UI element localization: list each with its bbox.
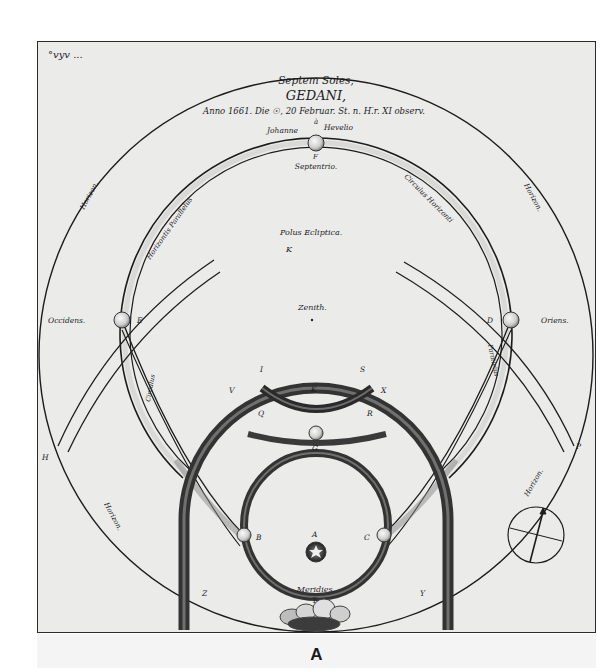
sun-east-D bbox=[503, 312, 519, 328]
letter-arc-right: S bbox=[360, 365, 365, 374]
label-parallelus-lower: Parallelus bbox=[486, 343, 501, 378]
letter-far-left: H bbox=[41, 453, 49, 462]
title-line-3: Anno 1661. Die ☉, 20 Februar. St. n. H.̅… bbox=[202, 106, 425, 116]
sun-west-E bbox=[114, 312, 130, 328]
letter-center-sun: G bbox=[312, 444, 318, 453]
label-oriens: Oriens. bbox=[541, 316, 569, 325]
letter-right-parhelion: C bbox=[364, 533, 370, 542]
sun-top bbox=[308, 135, 324, 151]
title-line-2: GEDANI, bbox=[286, 88, 346, 103]
letter-inner-right: R bbox=[366, 409, 373, 418]
label-pole-symbol: K bbox=[285, 245, 293, 254]
label-horizon-lr: Horizon. bbox=[522, 468, 545, 499]
letter-west-sun: E bbox=[136, 316, 143, 325]
letter-left-parhelion: B bbox=[255, 533, 262, 542]
author-left: Johanne bbox=[265, 126, 298, 135]
label-zenith: Zenith. bbox=[297, 303, 327, 312]
corner-inscription: °vyv ... bbox=[48, 49, 83, 60]
label-horizon-ll: Horizon. bbox=[102, 500, 124, 532]
sun-center-G bbox=[309, 426, 323, 440]
label-septentrio: Septentrio. bbox=[295, 162, 337, 171]
letter-lower-right: Y bbox=[420, 589, 426, 598]
label-horizontis-parallelus: Horizontis Parallelus bbox=[145, 195, 195, 262]
letter-inner-left: Q bbox=[258, 409, 264, 418]
letter-arc-left: I bbox=[259, 365, 264, 374]
author-right: Hevelio bbox=[323, 123, 353, 132]
title-line-4: à bbox=[314, 118, 318, 126]
letter-far-right: P bbox=[575, 442, 582, 451]
parhelion-diagram: °vyv ... Septem Soles, GEDANI, Anno 1661… bbox=[0, 0, 608, 672]
letter-lower-left: Z bbox=[201, 589, 208, 598]
label-horizon-ul: Horizon. bbox=[78, 180, 100, 212]
label-horizon-ur: Horizon. bbox=[522, 181, 544, 213]
letter-ring-right: X bbox=[380, 386, 387, 395]
letter-top-sun: F bbox=[312, 153, 319, 161]
label-polus-ecliptica: Polus Ecliptica. bbox=[279, 228, 342, 237]
letter-ring-left: V bbox=[229, 386, 236, 395]
east-oblique-arc bbox=[383, 262, 574, 546]
sun-right-C bbox=[377, 528, 391, 542]
letter-true-sun: A bbox=[311, 530, 318, 539]
title-line-1: Septem Soles, bbox=[278, 74, 354, 86]
compass-icon bbox=[508, 507, 564, 563]
letter-arc-mid: K bbox=[310, 385, 317, 394]
letter-east-sun: D bbox=[486, 316, 493, 325]
sun-left-B bbox=[237, 528, 251, 542]
label-occidens: Occidens. bbox=[48, 316, 85, 325]
label-meridies: Meridies. bbox=[296, 585, 335, 594]
